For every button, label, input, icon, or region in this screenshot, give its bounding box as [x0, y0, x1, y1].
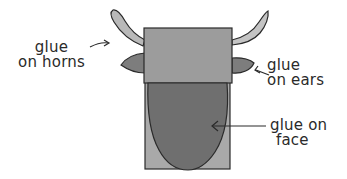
label-glue-on-face: glue on face	[270, 118, 327, 148]
label-glue-on-horns: glue on horns	[18, 40, 85, 70]
cow-mask-diagram: glue on horns glue on ears glue on face	[0, 0, 347, 179]
label-ears-line2: on ears	[267, 73, 324, 88]
right-horn-icon	[232, 11, 268, 45]
label-horns-line2: on horns	[18, 55, 85, 70]
arrow-to-ears-head	[255, 66, 260, 73]
top-block	[144, 28, 232, 83]
label-glue-on-ears: glue on ears	[267, 58, 324, 88]
label-face-line2: face	[270, 133, 327, 148]
right-ear-icon	[232, 58, 254, 73]
left-ear-icon	[121, 53, 145, 73]
cow-mask-illustration	[0, 0, 347, 179]
left-horn-icon	[111, 10, 145, 46]
